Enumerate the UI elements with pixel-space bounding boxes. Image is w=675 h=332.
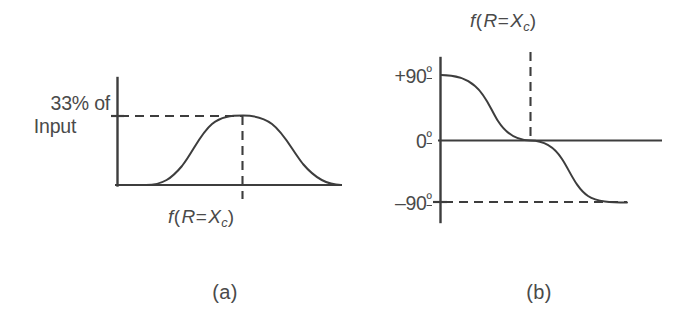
tick-value: +90 bbox=[394, 65, 426, 87]
panel-a-y-axis-label-line1: 33% of bbox=[50, 92, 110, 114]
math-open-paren: ( bbox=[476, 10, 484, 31]
degree-symbol: º bbox=[427, 64, 432, 80]
math-close-paren: ) bbox=[530, 10, 537, 31]
panel-b-plot bbox=[433, 52, 661, 222]
panel-a-x-axis-annotation: f(R=Xc) bbox=[168, 206, 235, 230]
panel-b-top-annotation: f(R=Xc) bbox=[470, 10, 537, 34]
math-variable-r: R bbox=[484, 10, 498, 31]
panel-b-phase-curve bbox=[441, 75, 627, 203]
math-variable-x: X bbox=[510, 10, 523, 31]
panel-a-plot bbox=[111, 78, 341, 199]
tick-value: –90 bbox=[395, 192, 427, 214]
math-variable-r: R bbox=[182, 206, 196, 227]
panel-b-caption: (b) bbox=[489, 281, 589, 305]
panel-a-caption: (a) bbox=[175, 281, 275, 305]
math-open-paren: ( bbox=[174, 206, 182, 227]
math-equals: = bbox=[498, 10, 511, 31]
math-variable-x: X bbox=[208, 206, 221, 227]
panel-b-y-tick-label-minus90: –90º bbox=[340, 191, 432, 215]
math-close-paren: ) bbox=[228, 206, 235, 227]
panel-a-y-axis-label: 33% of Input bbox=[6, 92, 110, 138]
panel-b-y-tick-label-zero: 0º bbox=[346, 129, 432, 153]
math-equals: = bbox=[196, 206, 209, 227]
figure-container: 33% of Input f(R=Xc) f(R=Xc) +90º 0º –90… bbox=[0, 0, 675, 332]
panel-b-y-tick-label-plus90: +90º bbox=[346, 64, 432, 88]
panel-a-y-axis-label-line2: Input bbox=[6, 115, 110, 138]
tick-value: 0 bbox=[416, 130, 427, 152]
degree-symbol: º bbox=[427, 191, 432, 207]
degree-symbol: º bbox=[427, 129, 432, 145]
